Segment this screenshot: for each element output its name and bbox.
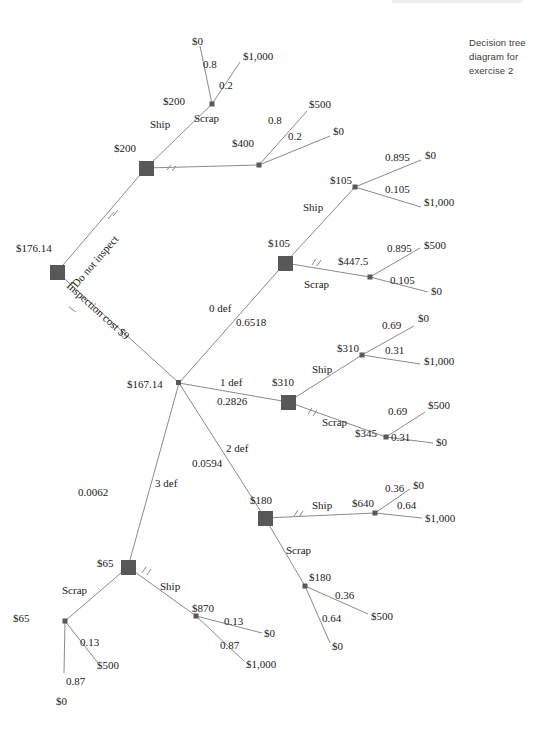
d0-scrap-outcome-2: $0 [431, 286, 442, 297]
d2-ship-node-value: $640 [352, 498, 374, 509]
edge-0-def [179, 263, 285, 383]
d3-scrap-prob-1: 0.13 [80, 637, 99, 648]
d1-ship-prob-1: 0.69 [382, 320, 401, 331]
prob-1-def: 0.2826 [217, 396, 247, 407]
chance-node-ni-ship [210, 102, 215, 107]
pruned-marker-icon [69, 307, 76, 312]
edge-d2-ship-0.64 [375, 513, 422, 518]
chance-node-d0-ship [353, 185, 358, 190]
ni-scrap-prob-2: 0.2 [288, 131, 302, 142]
edge-ni-ship-0.8 [200, 46, 212, 104]
branch-label-d0-ship: Ship [303, 202, 323, 213]
d2-node-value: $180 [250, 495, 272, 506]
caption-line-2: diagram for [469, 51, 518, 62]
d2-scrap-prob-2: 0.64 [322, 613, 341, 624]
d1-scrap-outcome-2: $0 [436, 437, 447, 448]
decision-node-0-def [278, 256, 293, 271]
edge-d2-ship [265, 513, 375, 518]
decision-tree-lines [0, 0, 536, 734]
ni-ship-prob-2: 0.2 [219, 80, 233, 91]
ni-scrap-outcome-1: $500 [309, 99, 331, 110]
ni-ship-outcome-2: $1,000 [243, 51, 273, 62]
d2-ship-outcome-1: $0 [413, 480, 424, 491]
ni-scrap-outcome-2: $0 [333, 126, 344, 137]
branch-label-d0-scrap: Scrap [304, 279, 329, 290]
decision-node-1-def [281, 395, 296, 410]
branch-label-d1-scrap: Scrap [322, 417, 347, 428]
d2-scrap-node-value: $180 [309, 572, 331, 583]
d3-ship-node-value: $870 [192, 603, 214, 614]
branch-label-d2-scrap: Scrap [286, 545, 311, 556]
edge-d1-ship-0.31 [362, 355, 420, 364]
figure-caption: Decision treediagram forexercise 2 [469, 36, 526, 77]
d0-ship-node-value: $105 [330, 175, 352, 186]
d1-scrap-outcome-1: $500 [428, 400, 450, 411]
d2-scrap-outcome-2: $0 [332, 641, 343, 652]
chance-node-d0-scrap [368, 275, 373, 280]
inspect-node-value: $167.14 [127, 379, 163, 390]
edge-d0-ship [285, 187, 355, 263]
prob-0-def: 0.6518 [236, 317, 266, 328]
d1-ship-outcome-1: $0 [418, 313, 429, 324]
d1-ship-prob-2: 0.31 [385, 345, 404, 356]
d2-ship-prob-2: 0.64 [397, 500, 416, 511]
d3-ship-outcome-2: $1,000 [246, 659, 276, 670]
decision-node-2-def [258, 511, 273, 526]
d0-ship-prob-2: 0.105 [385, 184, 410, 195]
d0-scrap-node-value: $447.5 [338, 256, 368, 267]
chance-node-d3-scrap [63, 619, 68, 624]
branch-label-0-def: 0 def [209, 303, 231, 314]
branch-label-d3-ship: Ship [160, 581, 180, 592]
chance-node-ni-scrap [257, 163, 262, 168]
caption-line-3: exercise 2 [469, 65, 513, 76]
d0-scrap-prob-1: 0.895 [387, 243, 412, 254]
edge-d3-scrap-0.87 [64, 621, 65, 673]
d1-ship-outcome-2: $1,000 [424, 356, 454, 367]
d1-scrap-node-value: $345 [355, 428, 377, 439]
pruned-marker-icon [167, 165, 176, 171]
d3-scrap-node-value: $65 [13, 613, 30, 624]
do-not-inspect-node-value: $200 [114, 143, 136, 154]
chance-node-d1-ship [360, 353, 365, 358]
d0-ship-outcome-1: $0 [425, 150, 436, 161]
d3-ship-prob-1: 0.13 [224, 616, 243, 627]
d1-scrap-prob-1: 0.69 [388, 406, 407, 417]
d3-scrap-outcome-2: $0 [56, 696, 67, 707]
d0-scrap-prob-2: 0.105 [390, 275, 415, 286]
d2-ship-prob-1: 0.36 [385, 483, 404, 494]
ni-ship-prob-1: 0.8 [203, 59, 217, 70]
d3-ship-prob-2: 0.87 [220, 640, 239, 651]
d1-node-value: $310 [272, 377, 294, 388]
chance-node-d2-ship [373, 511, 378, 516]
branch-label-d1-ship: Ship [312, 364, 332, 375]
root-value-label: $176.14 [16, 243, 52, 254]
d3-ship-outcome-1: $0 [264, 628, 275, 639]
edge-ni-scrap [146, 165, 259, 168]
d3-node-value: $65 [97, 558, 114, 569]
branch-label-ni-scrap: Scrap [194, 113, 219, 124]
branch-label-d3-scrap: Scrap [62, 585, 87, 596]
d1-ship-node-value: $310 [337, 343, 359, 354]
d0-ship-outcome-2: $1,000 [424, 197, 454, 208]
ni-scrap-prob-1: 0.8 [268, 115, 282, 126]
ni-ship-outcome-1: $0 [192, 36, 203, 47]
branch-label-1-def: 1 def [220, 377, 242, 388]
d2-scrap-outcome-1: $500 [371, 611, 393, 622]
d2-ship-outcome-2: $1,000 [425, 513, 455, 524]
decision-tree-figure: Decision treediagram forexercise 2 $176.… [0, 0, 536, 734]
ni-ship-node-value: $200 [163, 96, 185, 107]
edge-3-def [128, 383, 179, 567]
d0-node-value: $105 [268, 238, 290, 249]
chance-node-d2-scrap [303, 584, 308, 589]
d0-ship-prob-1: 0.895 [385, 152, 410, 163]
branch-label-2-def: 2 def [226, 443, 248, 454]
branch-label-3-def: 3 def [155, 478, 177, 489]
chance-node-inspect [176, 380, 181, 385]
branch-label-ni-ship: Ship [150, 119, 170, 130]
decision-node-group [50, 161, 296, 575]
chance-node-d3-ship [194, 614, 199, 619]
caption-line-1: Decision tree [469, 37, 526, 48]
d3-scrap-prob-2: 0.87 [66, 676, 85, 687]
decision-node-do-not-inspect [139, 161, 154, 176]
pruned-marker-icon [312, 259, 321, 266]
